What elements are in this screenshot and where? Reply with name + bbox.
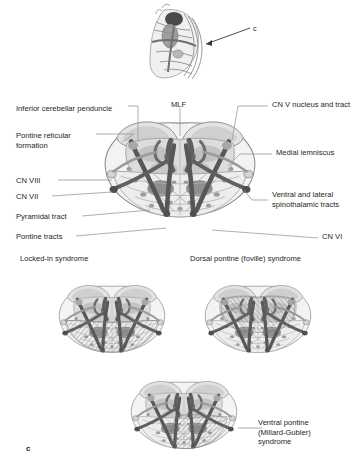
figure-root: Inferior cerebellar penduncle Pontine re… (0, 0, 359, 467)
label-pontine-tracts: Pontine tracts (16, 232, 62, 242)
locked-in-panel (59, 285, 165, 352)
label-medial-lemniscus: Medial lemniscus (276, 148, 334, 158)
label-mlf: MLF (171, 100, 186, 110)
panel-title-ventral-pontine-millard-gubler-syndrome: Ventral pontine (Millard-Gubler) syndrom… (258, 418, 354, 447)
label-cn-vii: CN VII (16, 192, 38, 202)
label-ventral-and-lateral-spinothalamic-tracts: Ventral and lateral spinothalamic tracts (272, 190, 339, 209)
panel-title-dorsal-pontine-foville-syndrome: Dorsal pontine (foville) syndrome (190, 254, 301, 264)
brainstem-inset (150, 4, 250, 79)
inset-arrow-label: c (253, 24, 257, 33)
panel-letter: c (26, 444, 30, 453)
millard-gubler-panel (131, 381, 237, 448)
foville-panel (205, 285, 311, 352)
label-pontine-reticular-formation: Pontine reticular formation (16, 131, 71, 150)
label-cn-v-nucleus-and-tract: CN V nucleus and tract (272, 100, 350, 110)
label-pyramidal-tract: Pyramidal tract (16, 212, 67, 222)
label-cn-vi: CN VI (322, 232, 342, 242)
label-inferior-cerebellar-peduncle: Inferior cerebellar penduncle (16, 104, 112, 114)
label-cn-viii: CN VIII (16, 176, 40, 186)
panel-title-locked-in-syndrome: Locked-in syndrome (20, 254, 88, 264)
